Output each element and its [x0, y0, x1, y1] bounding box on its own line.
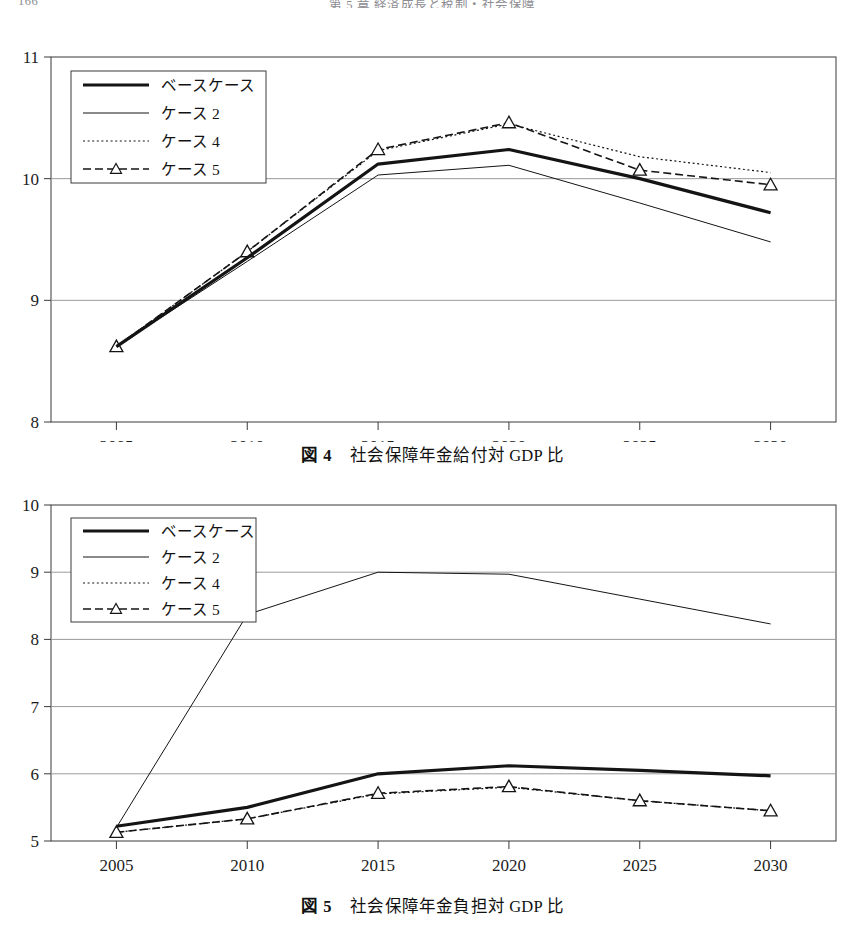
- y-axis-tick-label: 10: [22, 496, 39, 515]
- running-head-title: 第 5 章 経済成長と税制・社会保障: [0, 0, 865, 8]
- figure-4-caption: 図 4社会保障年金給付対 GDP 比: [0, 442, 865, 466]
- legend-label-2: ケース 2: [161, 549, 220, 566]
- x-axis-tick-label: 2025: [623, 437, 657, 442]
- figure-4-caption-label: 図 4: [301, 446, 332, 465]
- x-axis-tick-label: 2010: [230, 437, 264, 442]
- x-axis-tick-label: 2015: [361, 437, 395, 442]
- x-axis-tick-label: 2015: [361, 856, 395, 875]
- x-axis-tick-label: 2030: [754, 437, 788, 442]
- y-axis-tick-label: 9: [31, 291, 40, 310]
- figure-5-caption: 図 5社会保障年金負担対 GDP 比: [0, 893, 865, 917]
- figure-5-caption-text: 社会保障年金負担対 GDP 比: [350, 897, 564, 916]
- legend-label-2: ケース 2: [161, 105, 220, 122]
- x-axis-tick-label: 2030: [754, 856, 788, 875]
- figure-4-plot-area: 891011200520102015202020252030ベースケースケース …: [0, 22, 865, 442]
- figure-4: 891011200520102015202020252030ベースケースケース …: [0, 22, 865, 466]
- x-axis-tick-label: 2025: [623, 856, 657, 875]
- legend-label-1: ベースケース: [161, 77, 255, 94]
- y-axis-tick-label: 10: [22, 170, 39, 189]
- x-axis-tick-label: 2010: [230, 856, 264, 875]
- figure-5-caption-label: 図 5: [301, 897, 332, 916]
- y-axis-tick-label: 9: [31, 563, 40, 582]
- legend-label-4: ケース 5: [161, 601, 220, 618]
- legend-label-3: ケース 4: [161, 575, 220, 592]
- y-axis-tick-label: 11: [23, 48, 39, 67]
- x-axis-tick-label: 2005: [99, 437, 133, 442]
- document-page: 166 第 5 章 経済成長と税制・社会保障 89101120052010201…: [0, 0, 865, 933]
- running-header: 166 第 5 章 経済成長と税制・社会保障: [0, 0, 865, 8]
- figure-5-plot-area: 5678910200520102015202020252030ベースケースケース…: [0, 478, 865, 893]
- chart-figure-4: 891011200520102015202020252030ベースケースケース …: [0, 22, 865, 442]
- figure-5: 5678910200520102015202020252030ベースケースケース…: [0, 478, 865, 917]
- x-axis-tick-label: 2020: [492, 856, 526, 875]
- chart-legend: ベースケースケース 2ケース 4ケース 5: [71, 518, 256, 622]
- y-axis-tick-label: 7: [31, 698, 40, 717]
- x-axis-tick-label: 2020: [492, 437, 526, 442]
- y-axis-tick-label: 8: [31, 413, 40, 432]
- x-axis-tick-label: 2005: [99, 856, 133, 875]
- legend-label-4: ケース 5: [161, 161, 220, 178]
- y-axis-tick-label: 5: [31, 832, 40, 851]
- figure-4-caption-text: 社会保障年金給付対 GDP 比: [350, 446, 564, 465]
- y-axis-tick-label: 8: [31, 630, 40, 649]
- legend-label-1: ベースケース: [161, 523, 255, 540]
- chart-legend: ベースケースケース 2ケース 4ケース 5: [71, 71, 266, 183]
- y-axis-tick-label: 6: [31, 765, 40, 784]
- legend-label-3: ケース 4: [161, 133, 220, 150]
- chart-figure-5: 5678910200520102015202020252030ベースケースケース…: [0, 478, 865, 893]
